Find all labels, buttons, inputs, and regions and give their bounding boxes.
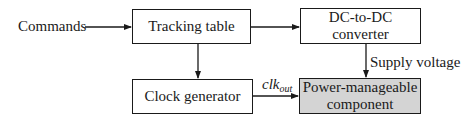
power-component-node: Power-manageable component <box>299 78 421 114</box>
clock-generator-label: Clock generator <box>144 88 240 105</box>
power-component-label: Power-manageable component <box>303 79 418 113</box>
clock-generator-node: Clock generator <box>132 79 253 114</box>
tracking-table-node: Tracking table <box>132 9 251 44</box>
dc-converter-node: DC-to-DC converter <box>300 8 421 44</box>
tracking-table-label: Tracking table <box>148 18 235 35</box>
clk-out-label: clkout <box>262 76 292 94</box>
dc-converter-label: DC-to-DC converter <box>329 9 392 43</box>
commands-label: Commands <box>18 18 86 35</box>
supply-voltage-label: Supply voltage <box>370 54 460 71</box>
